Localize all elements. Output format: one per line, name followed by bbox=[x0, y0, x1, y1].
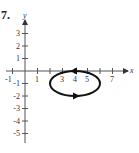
svg-text:3: 3 bbox=[60, 75, 64, 84]
svg-text:3: 3 bbox=[16, 29, 20, 38]
y-tick-labels: 3 2 1 -1 -2 -3 -4 -5 bbox=[13, 29, 20, 138]
svg-text:1: 1 bbox=[16, 54, 20, 63]
svg-text:-1: -1 bbox=[13, 79, 20, 88]
svg-text:-3: -3 bbox=[13, 104, 20, 113]
arrow-right-icon bbox=[73, 93, 80, 100]
x-axis-label: x bbox=[129, 66, 134, 75]
plot: y x -1 1 3 4 5 7 3 2 1 -1 -2 -3 -4 -5 bbox=[0, 0, 139, 153]
svg-text:7: 7 bbox=[110, 75, 114, 84]
svg-text:2: 2 bbox=[16, 42, 20, 51]
svg-text:-1: -1 bbox=[5, 75, 12, 84]
svg-text:1: 1 bbox=[35, 75, 39, 84]
y-axis-label: y bbox=[22, 11, 27, 20]
arrow-left-icon bbox=[70, 68, 77, 75]
svg-text:-4: -4 bbox=[13, 117, 20, 126]
svg-text:4: 4 bbox=[73, 75, 77, 84]
svg-text:-2: -2 bbox=[13, 92, 20, 101]
svg-text:-5: -5 bbox=[13, 129, 20, 138]
svg-text:5: 5 bbox=[85, 75, 89, 84]
